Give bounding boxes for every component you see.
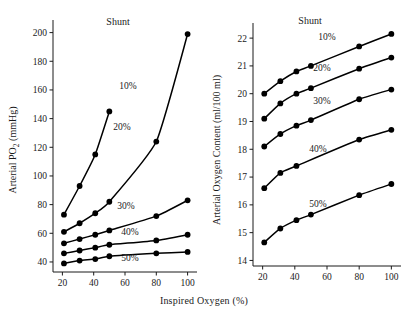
right-y-tick-label: 20 xyxy=(238,89,248,99)
series-annotation-40pct: 40% xyxy=(121,227,139,237)
data-point-40pct xyxy=(388,127,394,133)
chart-panel-arterial-po2: 406080100120140160180200 20406080100 10%… xyxy=(0,0,204,320)
left-x-tick-label: 40 xyxy=(89,278,99,288)
left-x-tick-label: 100 xyxy=(180,278,195,288)
data-point-50pct xyxy=(308,212,314,218)
series-annotation-50pct: 50% xyxy=(309,199,327,209)
data-point-20pct xyxy=(261,116,267,122)
data-point-30pct xyxy=(153,213,159,219)
right-y-tick-label: 22 xyxy=(238,34,248,44)
data-point-10pct xyxy=(388,31,394,37)
data-point-20pct xyxy=(92,210,98,216)
data-point-10pct xyxy=(77,183,83,189)
series-line-50pct xyxy=(264,184,391,242)
data-point-50pct xyxy=(153,250,159,256)
data-point-30pct xyxy=(294,123,300,129)
series-annotation-20pct: 20% xyxy=(113,122,131,132)
right-y-tick-labels: 141516171819202122 xyxy=(238,34,248,266)
data-point-20pct xyxy=(308,85,314,91)
right-y-tick-label: 15 xyxy=(238,228,248,238)
data-point-20pct xyxy=(356,66,362,72)
left-y-tick-label: 160 xyxy=(33,85,48,95)
series-annotation-10pct: 10% xyxy=(119,81,137,91)
data-point-40pct xyxy=(153,238,159,244)
data-point-30pct xyxy=(92,232,98,238)
data-point-40pct xyxy=(356,137,362,143)
left-y-tick-label: 180 xyxy=(33,57,48,67)
data-point-50pct xyxy=(77,258,83,264)
data-point-40pct xyxy=(92,245,98,251)
data-point-50pct xyxy=(61,261,67,267)
right-y-tick-label: 21 xyxy=(238,61,248,71)
data-point-20pct xyxy=(77,220,83,226)
series-line-40pct xyxy=(264,130,391,188)
right-y-tick-label: 14 xyxy=(238,256,248,266)
right-x-tick-label: 40 xyxy=(290,272,300,282)
left-y-tick-label: 40 xyxy=(38,257,48,267)
shared-x-axis-caption: Inspired Oxygen (%) xyxy=(0,295,408,306)
data-point-10pct xyxy=(294,69,300,75)
data-point-10pct xyxy=(61,212,67,218)
data-point-40pct xyxy=(185,232,191,238)
series-annotation-40pct: 40% xyxy=(309,144,327,154)
chart-panel-arterial-o2-content: 141516171819202122 20406080100 10%20%30%… xyxy=(204,0,408,320)
series-annotation-20pct: 20% xyxy=(313,63,331,73)
figure-container: 406080100120140160180200 20406080100 10%… xyxy=(0,0,408,320)
data-point-20pct xyxy=(106,199,112,205)
data-point-30pct xyxy=(261,144,267,150)
data-point-10pct xyxy=(106,109,112,115)
left-x-tick-label: 80 xyxy=(152,278,162,288)
right-y-tick-label: 18 xyxy=(238,145,248,155)
data-point-40pct xyxy=(106,242,112,248)
right-chart-svg: 141516171819202122 20406080100 10%20%30%… xyxy=(204,0,408,320)
data-point-40pct xyxy=(77,248,83,254)
right-x-tick-label: 20 xyxy=(258,272,268,282)
right-x-tick-label: 60 xyxy=(322,272,332,282)
data-point-30pct xyxy=(388,87,394,93)
series-annotation-30pct: 30% xyxy=(117,201,135,211)
data-point-30pct xyxy=(356,96,362,102)
data-point-20pct xyxy=(61,229,67,235)
y-title-post: (mmHg) xyxy=(7,106,19,143)
series-annotation-10pct: 10% xyxy=(318,32,336,42)
data-point-10pct xyxy=(261,91,267,97)
data-point-10pct xyxy=(277,78,283,84)
data-point-30pct xyxy=(277,131,283,137)
left-y-axis-title: Arterial PO2 (mmHg) xyxy=(7,106,21,193)
left-y-tick-label: 200 xyxy=(33,28,48,38)
data-point-20pct xyxy=(185,31,191,37)
right-y-axis-title: Arterial Oxygen Content (ml/100 ml) xyxy=(211,75,223,225)
data-point-30pct xyxy=(106,228,112,234)
left-y-tick-label: 100 xyxy=(33,171,48,181)
left-y-tick-labels: 406080100120140160180200 xyxy=(33,28,48,267)
data-point-30pct xyxy=(185,197,191,203)
data-point-10pct xyxy=(92,152,98,158)
data-point-50pct xyxy=(185,249,191,255)
left-x-tick-label: 60 xyxy=(120,278,130,288)
left-shunt-label: Shunt xyxy=(106,16,130,27)
series-annotation-30pct: 30% xyxy=(313,96,331,106)
data-point-20pct xyxy=(388,55,394,61)
left-y-tick-label: 120 xyxy=(33,143,48,153)
left-y-tick-label: 140 xyxy=(33,114,48,124)
data-point-50pct xyxy=(261,239,267,245)
data-point-20pct xyxy=(277,101,283,107)
left-x-tick-label: 20 xyxy=(58,278,68,288)
data-point-50pct xyxy=(294,217,300,223)
data-point-50pct xyxy=(388,181,394,187)
data-point-30pct xyxy=(308,117,314,123)
data-point-20pct xyxy=(294,91,300,97)
left-chart-svg: 406080100120140160180200 20406080100 10%… xyxy=(0,0,204,320)
data-point-20pct xyxy=(153,139,159,145)
y-title-pre: Arterial PO xyxy=(7,147,18,193)
right-x-tick-label: 100 xyxy=(384,272,399,282)
left-y-tick-label: 60 xyxy=(38,229,48,239)
right-y-tick-label: 19 xyxy=(238,117,248,127)
data-point-50pct xyxy=(277,226,283,232)
left-y-tick-label: 80 xyxy=(38,200,48,210)
right-y-tick-label: 17 xyxy=(238,172,248,182)
series-annotation-50pct: 50% xyxy=(121,253,139,263)
data-point-40pct xyxy=(277,170,283,176)
data-point-30pct xyxy=(77,236,83,242)
data-point-40pct xyxy=(61,250,67,256)
